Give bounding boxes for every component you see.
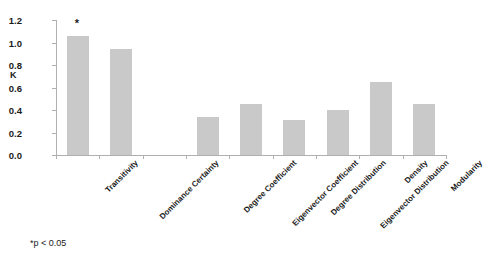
y-axis-tick-mark <box>52 110 56 111</box>
bar <box>240 104 262 155</box>
y-axis-tick-labels: 0.00.20.40.60.81.01.2 <box>0 20 22 155</box>
y-axis-tick-mark <box>52 20 56 21</box>
y-axis-tick-label: 1.0 <box>9 37 22 48</box>
x-axis-category-label: Dominance Certainty <box>158 159 221 222</box>
y-axis-tick-label: 0.8 <box>9 60 22 71</box>
bar <box>283 120 305 155</box>
bar <box>67 36 89 155</box>
y-axis-tick-label: 1.2 <box>9 15 22 26</box>
x-axis-category-labels: TransitivityDominance CertaintyDegree Co… <box>56 157 452 237</box>
bar <box>197 117 219 155</box>
y-axis-tick-mark <box>52 88 56 89</box>
x-axis-category-label: Degree Distribution <box>330 159 389 218</box>
x-axis-category-label: Degree Coefficient <box>242 159 298 215</box>
x-axis-line <box>56 155 446 156</box>
bar <box>370 82 392 155</box>
y-axis-tick-mark <box>52 65 56 66</box>
x-axis-category-label: Modularity <box>450 159 485 194</box>
significance-footnote: *p < 0.05 <box>30 238 66 248</box>
bar <box>413 104 435 155</box>
y-axis-tick-label: 0.4 <box>9 105 22 116</box>
y-axis-tick-label: 0.2 <box>9 127 22 138</box>
bar <box>327 110 349 155</box>
y-axis-tick-label: 0.0 <box>9 150 22 161</box>
y-axis-tick-label: 0.6 <box>9 82 22 93</box>
bar <box>110 49 132 155</box>
significance-asterisk: * <box>75 18 79 29</box>
y-axis-tick-mark <box>52 133 56 134</box>
y-axis-line <box>56 20 57 156</box>
x-axis-category-label: Transitivity <box>104 159 140 195</box>
plot-area: * <box>56 20 446 155</box>
y-axis-tick-mark <box>52 43 56 44</box>
